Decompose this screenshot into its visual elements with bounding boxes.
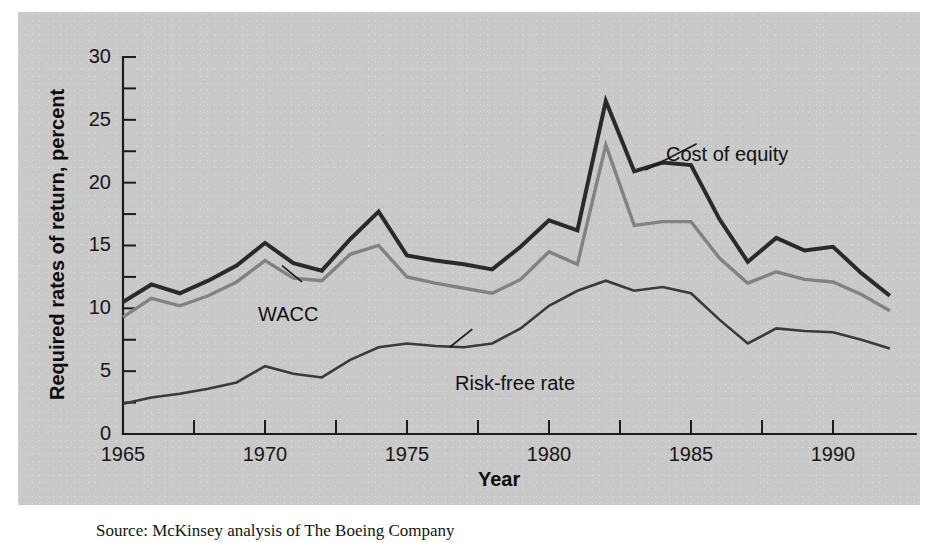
figure: 051015202530 196519701975198019851990 Re… xyxy=(0,0,929,543)
series-line-wacc xyxy=(123,145,890,317)
leader-risk-free-rate xyxy=(450,329,473,347)
y-axis-title: Required rates of return, percent xyxy=(46,89,69,400)
x-tick-label: 1965 xyxy=(83,443,163,466)
x-axis-title: Year xyxy=(478,468,520,491)
figure-caption: Source: McKinsey analysis of The Boeing … xyxy=(96,521,455,543)
series-label-cost-of-equity: Cost of equity xyxy=(666,143,788,166)
series-label-risk-free-rate: Risk-free rate xyxy=(455,372,575,395)
y-tick-label: 0 xyxy=(45,422,111,445)
x-tick-label: 1970 xyxy=(225,443,305,466)
x-tick-label: 1985 xyxy=(651,443,731,466)
series-label-wacc: WACC xyxy=(258,303,318,326)
x-tick-label: 1990 xyxy=(793,443,873,466)
x-tick-label: 1975 xyxy=(367,443,447,466)
x-tick-label: 1980 xyxy=(509,443,589,466)
y-tick-label: 30 xyxy=(45,45,111,68)
